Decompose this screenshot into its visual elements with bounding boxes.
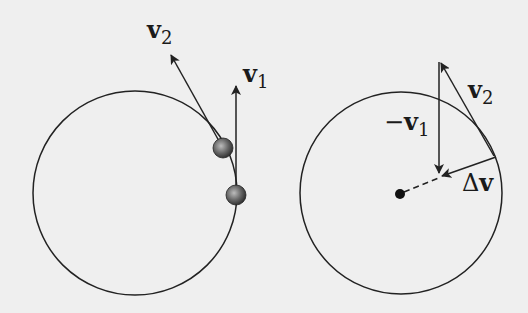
ball-position-2 [213, 138, 233, 158]
label-delta-v: Δv [462, 168, 494, 197]
label-v2: v2 [146, 15, 172, 48]
left-circle-path [33, 91, 237, 295]
right-panel: −v1 v2 Δv [300, 62, 502, 294]
left-panel: v2 v1 [33, 15, 268, 295]
ball-position-1 [226, 185, 246, 205]
label-v1: v1 [242, 59, 268, 92]
center-dot [395, 189, 405, 199]
label-v2-right: v2 [467, 75, 493, 108]
dashed-radius [404, 177, 441, 192]
circular-motion-diagram: v2 v1 −v1 v2 Δv [0, 0, 528, 313]
label-neg-v1: −v1 [384, 107, 430, 140]
v2-arrow [171, 55, 219, 141]
